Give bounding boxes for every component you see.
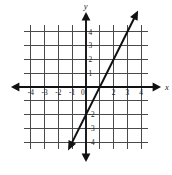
x-tick-label: -4 bbox=[28, 88, 34, 97]
x-tick-label: -2 bbox=[55, 88, 61, 97]
x-tick-label: 2 bbox=[112, 88, 116, 97]
graph-canvas: -4-3-2-10234 4321-2-3-4 x y bbox=[0, 0, 172, 175]
y-tick-label: 2 bbox=[89, 55, 93, 64]
x-tick-label: 4 bbox=[139, 88, 143, 97]
coordinate-plane-graph: -4-3-2-10234 4321-2-3-4 x y bbox=[0, 0, 172, 175]
x-axis-label: x bbox=[164, 82, 169, 92]
x-tick-label: 0 bbox=[81, 88, 85, 97]
x-axis-arrow-left-icon bbox=[11, 83, 20, 92]
y-tick-label: -2 bbox=[89, 110, 95, 119]
x-tick-label: 3 bbox=[126, 88, 130, 97]
y-tick-label: 3 bbox=[89, 41, 93, 50]
y-tick-label: 1 bbox=[89, 69, 93, 78]
y-axis-arrow-up-icon bbox=[82, 12, 91, 21]
x-axis-arrow-right-icon bbox=[153, 83, 162, 92]
y-tick-label: 4 bbox=[89, 28, 93, 37]
function-line bbox=[71, 16, 136, 145]
y-tick-label: -3 bbox=[89, 124, 95, 133]
x-tick-label: -3 bbox=[42, 88, 48, 97]
y-axis-label: y bbox=[83, 1, 88, 11]
x-tick-label: -1 bbox=[69, 88, 75, 97]
y-axis-arrow-down-icon bbox=[82, 154, 91, 163]
y-tick-label: -4 bbox=[89, 138, 95, 147]
